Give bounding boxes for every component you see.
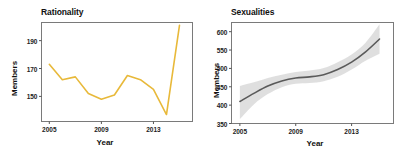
x-tick-label: 2005 [233, 128, 247, 135]
y-tick-label: 170 [17, 65, 38, 72]
y-tick-label: 550 [207, 47, 228, 54]
x-tick-label: 2009 [94, 126, 108, 133]
x-tick-label: 2013 [344, 128, 358, 135]
x-axis-label: Year [307, 139, 324, 148]
x-tick-label: 2005 [42, 126, 56, 133]
x-tick-label: 2009 [289, 128, 303, 135]
panel-rationality: Rationality 150170190 200520092013 Membe… [0, 0, 203, 160]
plot-area-rationality [0, 0, 203, 160]
y-axis-label: Members [10, 61, 19, 96]
plot-area-sexualities [203, 0, 407, 160]
y-tick-label: 400 [207, 102, 228, 109]
y-tick-label: 350 [207, 120, 228, 127]
two-panel-line-chart-figure: Rationality 150170190 200520092013 Membe… [0, 0, 407, 160]
panel-sexualities: Sexualities 350400450500550600 200520092… [203, 0, 407, 160]
y-tick-label: 150 [17, 93, 38, 100]
x-axis-label: Year [97, 138, 114, 147]
y-tick-label: 600 [207, 28, 228, 35]
x-tick-label: 2013 [146, 126, 160, 133]
plot-frame [42, 23, 193, 122]
y-tick-label: 190 [17, 37, 38, 44]
y-axis-label: Members [212, 63, 221, 98]
